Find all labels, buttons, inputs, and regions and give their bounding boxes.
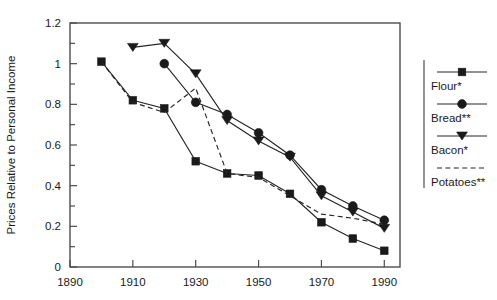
marker-triangle-down (379, 224, 390, 232)
marker-circle (254, 128, 263, 137)
marker-square (458, 68, 466, 76)
marker-triangle-down (316, 192, 327, 200)
y-axis-ticks (70, 23, 77, 267)
marker-triangle-down (347, 208, 358, 216)
marker-circle (458, 100, 467, 109)
marker-square (192, 157, 200, 165)
series-line (164, 64, 384, 221)
legend-label: Bread** (431, 112, 471, 124)
y-tick-label: 1 (55, 58, 61, 70)
data-series-layer (98, 39, 390, 254)
marker-circle (160, 59, 169, 68)
legend-item-flour[interactable]: Flour* (431, 68, 487, 92)
legend-item-potatoes[interactable]: Potatoes** (431, 168, 487, 188)
legend-label: Flour* (431, 80, 462, 92)
series-2 (160, 59, 389, 224)
marker-square (223, 170, 231, 178)
marker-square (349, 235, 357, 243)
marker-triangle-down (253, 137, 264, 145)
x-axis-ticks (70, 260, 384, 267)
legend-items: Flour*Bread**Bacon*Potatoes** (431, 68, 487, 188)
x-tick-label: 1930 (183, 276, 209, 288)
legend-label: Potatoes** (431, 176, 486, 188)
y-axis-title: Prices Relative to Personal Income (5, 56, 17, 235)
marker-circle (191, 98, 200, 107)
y-tick-label: 0.6 (45, 139, 61, 151)
legend-label: Bacon* (431, 144, 469, 156)
y-tick-label: 1.2 (45, 17, 61, 29)
series-1 (98, 58, 388, 255)
chart-legend: Flour*Bread**Bacon*Potatoes** (424, 60, 487, 188)
x-tick-label: 1970 (309, 276, 335, 288)
y-tick-label: 0.4 (45, 180, 62, 192)
legend-item-bacon[interactable]: Bacon* (431, 132, 487, 156)
x-tick-label: 1990 (371, 276, 397, 288)
y-tick-label: 0.2 (45, 220, 61, 232)
series-line (101, 62, 384, 251)
x-tick-label: 1890 (57, 276, 83, 288)
y-axis-tick-labels: 00.20.40.60.811.2 (45, 17, 62, 273)
plot-area: 189019101930195019701990 00.20.40.60.811… (45, 17, 400, 288)
x-axis-tick-labels: 189019101930195019701990 (57, 276, 397, 288)
legend-item-bread[interactable]: Bread** (431, 100, 487, 124)
marker-triangle-down (190, 70, 201, 78)
marker-square (318, 218, 326, 226)
x-tick-label: 1950 (246, 276, 272, 288)
price-index-line-chart: 189019101930195019701990 00.20.40.60.811… (0, 0, 497, 300)
x-tick-label: 1910 (120, 276, 146, 288)
y-tick-label: 0 (55, 261, 61, 273)
marker-square (380, 247, 388, 255)
y-tick-label: 0.8 (45, 98, 61, 110)
plot-frame (70, 23, 400, 267)
